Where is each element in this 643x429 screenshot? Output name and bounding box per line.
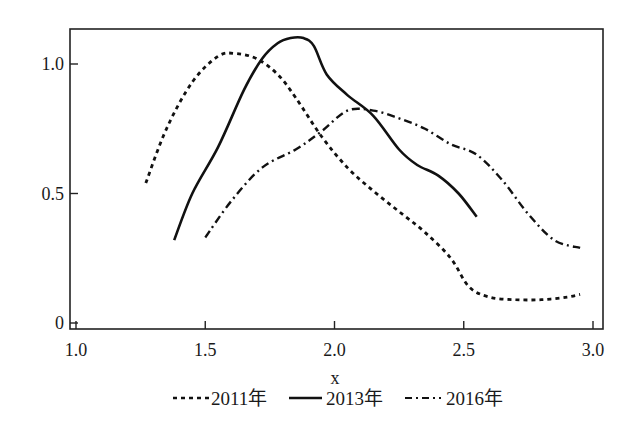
y-tick-label: 0 [55, 313, 64, 333]
y-tick-label: 1.0 [42, 54, 65, 74]
x-axis-label: x [331, 368, 340, 388]
legend-label-2016: 2016年 [446, 388, 503, 409]
plot-frame [70, 29, 603, 329]
x-tick-label: 3.0 [582, 340, 605, 360]
x-tick-label: 1.5 [194, 340, 217, 360]
y-axis: 00.51.0 [42, 54, 79, 333]
legend: 2011年 2013年 2016年 [173, 388, 503, 409]
x-tick-label: 2.5 [453, 340, 476, 360]
y-tick-label: 0.5 [42, 184, 65, 204]
x-axis: 1.01.52.02.53.0 [65, 321, 605, 360]
line-chart: 00.51.0 1.01.52.02.53.0 x 2011年 2013年 20… [0, 0, 643, 429]
x-tick-label: 1.0 [65, 340, 88, 360]
legend-label-2013: 2013年 [326, 388, 383, 409]
series-layer [146, 37, 580, 300]
legend-label-2011: 2011年 [211, 388, 267, 409]
series-line-2016 [205, 109, 580, 248]
series-line-2011 [146, 53, 580, 300]
x-tick-label: 2.0 [323, 340, 346, 360]
series-line-2013 [174, 37, 477, 240]
